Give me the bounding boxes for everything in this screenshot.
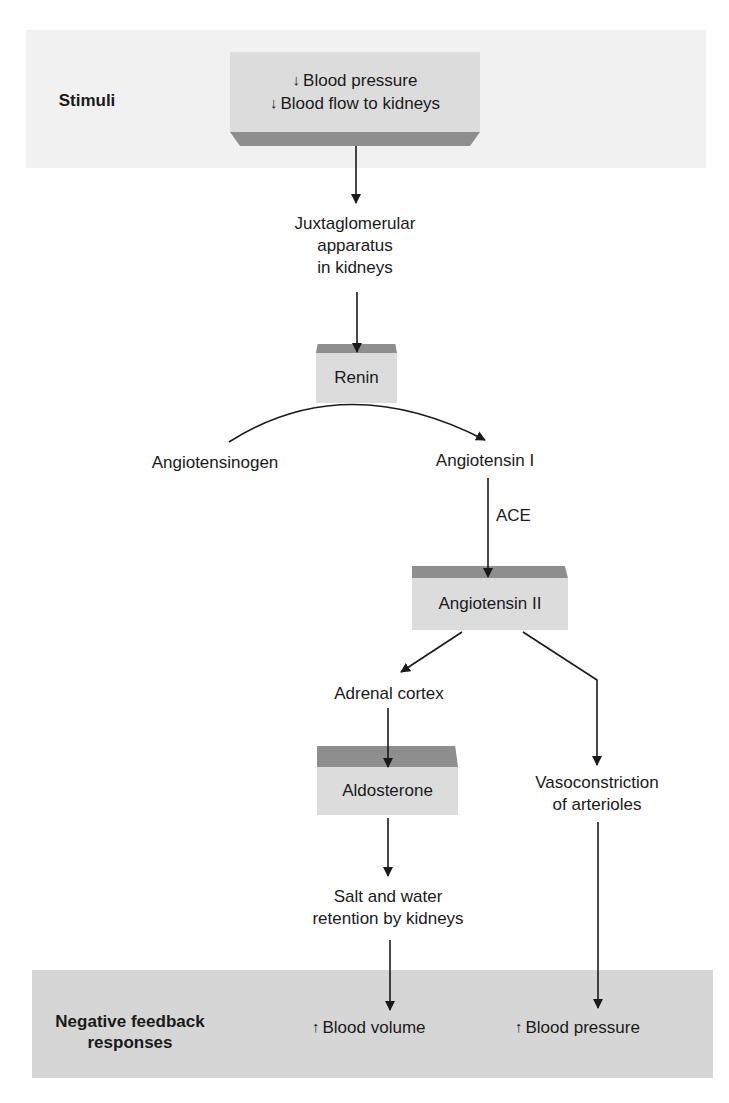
stimulus-line-blood-pressure: ↓Blood pressure bbox=[293, 69, 418, 92]
vasoconstriction-label: Vasoconstriction of arterioles bbox=[517, 772, 677, 816]
box-bevel bbox=[316, 344, 397, 353]
aldosterone-label: Aldosterone bbox=[317, 767, 458, 815]
angiotensin-2-box: Angiotensin II bbox=[412, 566, 568, 630]
up-arrow-icon: ↑ bbox=[515, 1016, 523, 1038]
box-bevel bbox=[412, 566, 568, 578]
ace-label: ACE bbox=[496, 505, 546, 527]
stimuli-label: Stimuli bbox=[52, 90, 122, 111]
angiotensin-1-label: Angiotensin I bbox=[420, 450, 550, 472]
juxtaglomerular-label: Juxtaglomerular apparatus in kidneys bbox=[255, 213, 455, 279]
arrow-ang2-to-vasoconstriction bbox=[523, 632, 597, 765]
stimulus-line-blood-flow: ↓Blood flow to kidneys bbox=[270, 92, 440, 115]
responses-label: Negative feedback responses bbox=[40, 1011, 220, 1053]
box-bevel bbox=[230, 132, 480, 146]
stimulus-box: ↓Blood pressure ↓Blood flow to kidneys bbox=[230, 52, 480, 146]
down-arrow-icon: ↓ bbox=[293, 69, 301, 91]
angiotensin-2-label: Angiotensin II bbox=[412, 578, 568, 630]
salt-water-retention-label: Salt and water retention by kidneys bbox=[288, 886, 488, 930]
adrenal-cortex-label: Adrenal cortex bbox=[314, 683, 464, 705]
aldosterone-box: Aldosterone bbox=[317, 746, 458, 815]
box-bevel bbox=[317, 746, 458, 767]
renin-box: Renin bbox=[316, 344, 397, 403]
angiotensinogen-label: Angiotensinogen bbox=[140, 452, 290, 474]
arrow-ang2-to-adrenal bbox=[401, 632, 462, 672]
up-arrow-icon: ↑ bbox=[312, 1016, 320, 1038]
response-blood-pressure: ↑Blood pressure bbox=[515, 1016, 685, 1039]
renin-label: Renin bbox=[316, 353, 397, 403]
response-blood-volume: ↑Blood volume bbox=[312, 1016, 462, 1039]
down-arrow-icon: ↓ bbox=[270, 92, 278, 114]
arrow-renin-conversion bbox=[229, 404, 485, 442]
